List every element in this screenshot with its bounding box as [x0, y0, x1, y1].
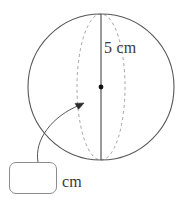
answer-unit-label: cm	[62, 174, 82, 190]
answer-input-box[interactable]	[9, 162, 57, 194]
radius-measurement-label: 5 cm	[104, 40, 136, 56]
pointer-arrow-line	[37, 105, 80, 162]
centre-dot	[99, 85, 104, 90]
sphere-diagram-figure: 5 cm cm	[0, 0, 184, 201]
pointer-arrow-head	[75, 103, 84, 109]
